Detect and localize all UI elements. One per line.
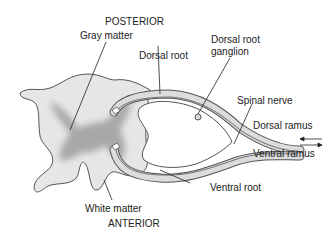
label-white-matter: White matter [85, 203, 142, 214]
label-dorsal-root-ganglion-1: Dorsal root [211, 34, 260, 45]
label-ventral-ramus: Ventral ramus [253, 148, 315, 159]
label-gray-matter: Gray matter [80, 30, 133, 41]
label-dorsal-ramus: Dorsal ramus [253, 120, 312, 131]
label-anterior: ANTERIOR [108, 218, 160, 229]
label-spinal-nerve: Spinal nerve [237, 95, 293, 106]
dorsal-root-ganglion [195, 114, 201, 120]
rami-arrows [300, 137, 322, 147]
label-posterior: POSTERIOR [105, 16, 164, 27]
label-ventral-root: Ventral root [210, 182, 261, 193]
label-dorsal-root: Dorsal root [139, 50, 188, 61]
label-dorsal-root-ganglion-2: ganglion [211, 46, 249, 57]
